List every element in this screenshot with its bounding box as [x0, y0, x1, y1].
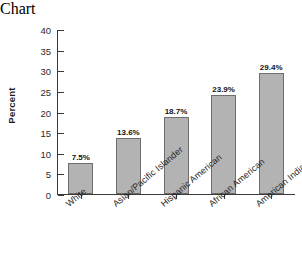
bar-value-label: 23.9%: [212, 85, 235, 94]
y-tick-mark: [58, 133, 64, 134]
y-tick-mark: [58, 71, 64, 72]
y-tick-mark: [58, 51, 64, 52]
y-tick-label: 30: [40, 66, 51, 77]
y-tick-label: 40: [40, 25, 51, 36]
bar-value-label: 7.5%: [72, 153, 90, 162]
y-tick-mark: [58, 30, 64, 31]
bar: 29.4%: [259, 73, 284, 194]
y-tick-mark: [58, 174, 64, 175]
y-tick-label: 35: [40, 45, 51, 56]
bar-value-label: 18.7%: [165, 107, 188, 116]
y-tick-mark: [58, 92, 64, 93]
y-tick-label: 20: [40, 107, 51, 118]
plot-area: 4035302520151050 7.5%13.6%18.7%23.9%29.4…: [57, 30, 295, 195]
y-tick-label: 10: [40, 148, 51, 159]
bar-chart: Percent 4035302520151050 7.5%13.6%18.7%2…: [0, 18, 302, 268]
y-axis-title: Percent: [6, 76, 17, 136]
y-tick-label: 25: [40, 86, 51, 97]
y-tick-label: 15: [40, 128, 51, 139]
y-tick-mark: [58, 113, 64, 114]
bar-value-label: 13.6%: [117, 128, 140, 137]
y-tick-label: 0: [46, 190, 51, 201]
y-tick-label: 5: [46, 169, 51, 180]
bar-value-label: 29.4%: [260, 63, 283, 72]
y-tick-mark: [58, 195, 64, 196]
y-tick-mark: [58, 154, 64, 155]
